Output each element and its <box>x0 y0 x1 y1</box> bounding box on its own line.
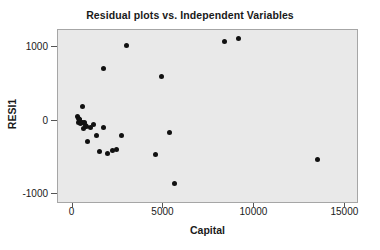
data-point <box>85 139 90 144</box>
chart-title: Residual plots vs. Independent Variables <box>0 9 380 21</box>
y-tick-mark <box>51 193 57 194</box>
data-point <box>167 130 172 135</box>
data-point <box>91 122 96 127</box>
x-axis-title: Capital <box>57 224 358 236</box>
data-point <box>315 157 320 162</box>
data-point <box>153 152 158 157</box>
y-tick-label: 1000 <box>26 40 48 51</box>
plot-area <box>57 29 358 203</box>
data-point <box>105 151 110 156</box>
data-point <box>101 66 106 71</box>
data-point <box>236 36 241 41</box>
data-point <box>172 181 177 186</box>
x-tick-mark <box>72 203 73 208</box>
y-tick-label: 0 <box>42 114 48 125</box>
x-tick-mark <box>344 203 345 208</box>
data-point <box>222 39 227 44</box>
data-point <box>159 74 164 79</box>
data-point <box>80 104 85 109</box>
y-tick-mark <box>51 120 57 121</box>
data-point <box>101 125 106 130</box>
data-point <box>119 133 124 138</box>
scatter-chart: Residual plots vs. Independent Variables… <box>0 0 380 250</box>
x-tick-mark <box>162 203 163 208</box>
data-point <box>94 133 99 138</box>
data-point <box>114 147 119 152</box>
y-tick-mark <box>51 46 57 47</box>
y-axis-title: RESI1 <box>6 84 18 144</box>
data-point <box>97 149 102 154</box>
x-tick-mark <box>253 203 254 208</box>
data-point <box>124 43 129 48</box>
y-tick-label: -1000 <box>22 188 48 199</box>
